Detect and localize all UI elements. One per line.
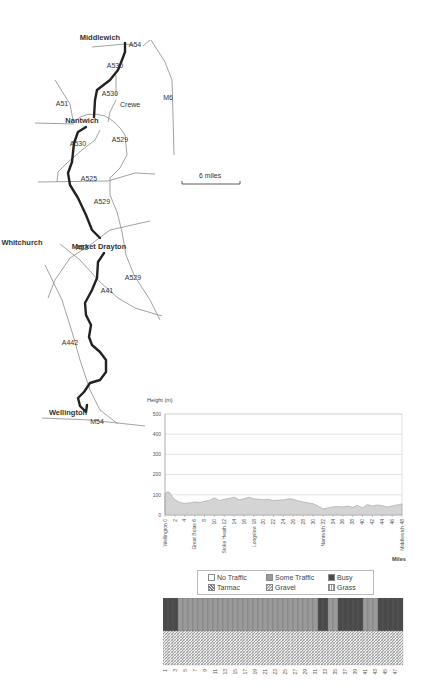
y-tick-label: 100 <box>153 492 162 498</box>
x-tick-label: 22 <box>270 519 276 525</box>
surface-cell <box>163 631 168 665</box>
traffic-cell <box>383 598 388 631</box>
road-label: M6 <box>163 94 173 101</box>
legend-label: No Traffic <box>217 574 247 581</box>
surface-cell <box>383 631 388 665</box>
traffic-cell <box>333 598 338 631</box>
surface-cell <box>228 631 233 665</box>
x-tick-label: 28 <box>300 519 306 525</box>
surface-cell <box>263 631 268 665</box>
strip-tick-label: 23 <box>272 669 278 675</box>
elevation-chart: Height (m) 0100200300400500Wellington 02… <box>140 395 427 565</box>
surface-cell <box>348 631 353 665</box>
traffic-cell <box>278 598 283 631</box>
surface-cell <box>328 631 333 665</box>
traffic-cell <box>243 598 248 631</box>
legend-tarmac: Tarmac <box>208 584 240 591</box>
strip-tick-label: 33 <box>322 669 328 675</box>
x-tick-label: 20 <box>260 519 266 525</box>
strip-tick-label: 41 <box>362 669 368 675</box>
traffic-cell <box>343 598 348 631</box>
traffic-cell <box>348 598 353 631</box>
legend-grass: Grass <box>328 584 356 591</box>
y-tick-label: 400 <box>153 431 162 437</box>
traffic-cell <box>193 598 198 631</box>
surface-cell <box>223 631 228 665</box>
x-tick-label: 14 <box>231 519 237 525</box>
route-map: 6 miles MiddlewichNantwichMarket Drayton… <box>0 0 260 435</box>
surface-cell <box>208 631 213 665</box>
surface-cell <box>243 631 248 665</box>
traffic-cell <box>273 598 278 631</box>
road-label: A529 <box>112 136 128 143</box>
traffic-cell <box>398 598 403 631</box>
x-tick-label: 44 <box>379 519 385 525</box>
surface-cell <box>303 631 308 665</box>
x-tick-label: 24 <box>280 519 286 525</box>
x-tick-label: Middlewich 48 <box>399 519 405 551</box>
strip-tick-label: 25 <box>282 669 288 675</box>
strip-tick-label: 1 <box>163 669 168 672</box>
traffic-cell <box>223 598 228 631</box>
route-line <box>68 43 125 412</box>
strip-tick-label: 3 <box>172 669 178 672</box>
map-canvas: 6 miles MiddlewichNantwichMarket Drayton… <box>0 0 260 435</box>
surface-cell <box>258 631 263 665</box>
traffic-cell <box>238 598 243 631</box>
traffic-cell <box>233 598 238 631</box>
surface-cell <box>378 631 383 665</box>
town-label: Middlewich <box>80 33 121 42</box>
y-tick-label: 0 <box>158 512 161 518</box>
strip-tick-label: 15 <box>232 669 238 675</box>
legend-busy: Busy <box>328 574 353 581</box>
y-tick-label: 500 <box>153 411 162 417</box>
surface-cell <box>353 631 358 665</box>
traffic-cell <box>368 598 373 631</box>
scale-bar <box>182 181 240 184</box>
traffic-cell <box>178 598 183 631</box>
traffic-surface-strip: 1357911131517192123252729313335373941434… <box>163 598 404 680</box>
road-label: A442 <box>62 339 78 346</box>
x-tick-label: 2 <box>172 519 178 522</box>
surface-cell <box>343 631 348 665</box>
surface-cell <box>173 631 178 665</box>
map-roads <box>35 40 174 426</box>
no-traffic-swatch-icon <box>208 574 215 581</box>
busy-swatch-icon <box>328 574 335 581</box>
surface-cell <box>248 631 253 665</box>
strip-tick-label: 29 <box>302 669 308 675</box>
traffic-cell <box>208 598 213 631</box>
traffic-cell <box>188 598 193 631</box>
legend-some-traffic: Some Traffic <box>266 574 314 581</box>
traffic-cell <box>318 598 323 631</box>
strip-tick-label: 11 <box>212 669 218 674</box>
map-labels: MiddlewichNantwichMarket DraytonWhitchur… <box>1 33 173 425</box>
surface-cell <box>253 631 258 665</box>
surface-cell <box>318 631 323 665</box>
strip-tick-label: 35 <box>332 669 338 675</box>
surface-cell <box>233 631 238 665</box>
surface-cell <box>338 631 343 665</box>
strip-tick-label: 9 <box>202 669 208 672</box>
x-tick-label: 38 <box>349 519 355 525</box>
road-label: A530 <box>107 62 123 69</box>
road-label: A529 <box>94 198 110 205</box>
traffic-cell <box>168 598 173 631</box>
tarmac-swatch-icon <box>208 584 215 591</box>
strip-tick-label: 39 <box>352 669 358 675</box>
traffic-cell <box>258 598 263 631</box>
traffic-cell <box>283 598 288 631</box>
traffic-cell <box>253 598 258 631</box>
traffic-cell <box>228 598 233 631</box>
surface-cell <box>203 631 208 665</box>
legend-label: Some Traffic <box>275 574 314 581</box>
x-tick-label: 36 <box>339 519 345 525</box>
traffic-cell <box>248 598 253 631</box>
surface-cell <box>393 631 398 665</box>
road-label: A51 <box>56 100 69 107</box>
y-tick-label: 300 <box>153 451 162 457</box>
place-label: Crewe <box>120 101 140 108</box>
strip-tick-label: 43 <box>372 669 378 675</box>
strip-plot: 1357911131517192123252729313335373941434… <box>163 598 404 680</box>
x-tick-label: Great Bolas 6 <box>191 519 197 550</box>
